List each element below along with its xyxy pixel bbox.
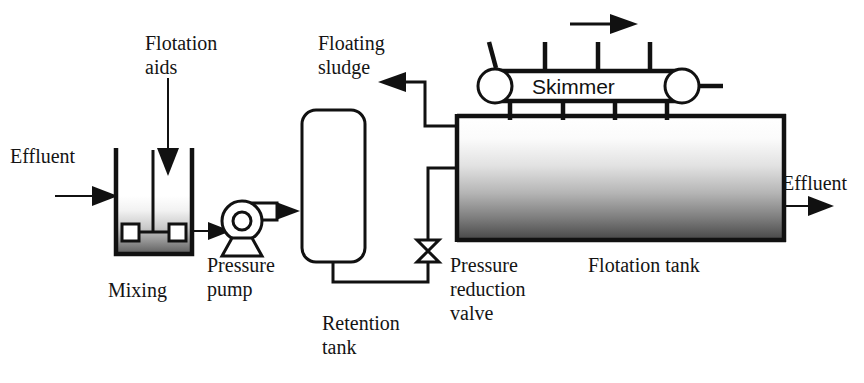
floating-sludge-stream [378, 72, 457, 126]
valve-to-flotation-line [428, 168, 457, 229]
floating-sludge-label-line1: Floating [318, 32, 385, 55]
skimmer-pulley-left [478, 69, 512, 103]
flotation-aids-arrowhead [157, 148, 179, 176]
skimmer-travel-arrow [570, 14, 638, 34]
pressure-reduction-valve-body [417, 240, 439, 262]
flotation-tank-liquid [459, 116, 784, 240]
mixing-tank [116, 148, 192, 254]
pressure-pump-impeller [233, 212, 251, 230]
retention-tank-label-line1: Retention [322, 312, 400, 334]
flotation-tank [457, 114, 786, 242]
effluent-outlet-stream [784, 196, 834, 216]
effluent-outlet-label: Effluent [782, 172, 848, 194]
flotation-aids-label-line2: aids [145, 56, 177, 78]
pressure-reduction-valve [417, 229, 439, 262]
flotation-tank-label: Flotation tank [588, 254, 700, 276]
skimmer-label: Skimmer [532, 75, 615, 98]
skimmer: Skimmer [478, 42, 723, 120]
pump-to-retention-arrowhead [276, 202, 300, 220]
pressure-pump-label-line1: Pressure [207, 254, 275, 276]
pressure-reduction-valve-label-line2: reduction [450, 278, 526, 300]
pressure-pump [222, 201, 277, 256]
skimmer-travel-arrowhead [610, 14, 638, 34]
effluent-outlet-arrowhead [808, 196, 834, 216]
mixing-tank-impeller-blade-right [169, 224, 186, 241]
retention-tank-label-line2: tank [322, 336, 356, 358]
mixing-tank-impeller-blade-left [122, 224, 139, 241]
pressure-reduction-valve-label-line1: Pressure [450, 254, 518, 276]
valve-to-flotation-riser [428, 168, 457, 229]
flotation-aids-stream [157, 78, 179, 176]
mixing-tank-label: Mixing [108, 279, 167, 302]
skimmer-paddle-top-1 [489, 42, 496, 68]
pressure-reduction-valve-label-line3: valve [450, 302, 493, 324]
retention-to-valve-piping [333, 261, 428, 282]
diagram-canvas: Effluent Flotation aids Mixing Pressure [0, 0, 864, 383]
flotation-aids-label-line1: Flotation [145, 32, 217, 54]
skimmer-pulley-right [665, 69, 699, 103]
retention-tank [302, 110, 365, 262]
effluent-inlet-label: Effluent [10, 145, 76, 167]
retention-tank-vessel [302, 110, 365, 262]
effluent-inlet-stream [55, 186, 118, 206]
process-flow-diagram: Effluent Flotation aids Mixing Pressure [0, 0, 864, 383]
floating-sludge-arrowhead [378, 72, 406, 92]
floating-sludge-label-line2: sludge [318, 56, 370, 79]
pressure-pump-label-line2: pump [207, 278, 253, 301]
pump-to-retention-stream [276, 202, 300, 220]
floating-sludge-line [402, 82, 457, 126]
retention-to-valve-line [333, 261, 428, 282]
